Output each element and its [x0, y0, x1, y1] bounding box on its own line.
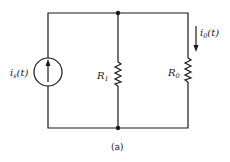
figure-caption: (a) [111, 142, 124, 152]
circuit-wires [48, 13, 188, 128]
source-label: is(t) [10, 67, 28, 80]
resistor-r0-icon [185, 58, 191, 82]
resistor-r1-label: R1 [96, 70, 109, 83]
resistor-r1-icon [115, 62, 121, 86]
bottom-junction-node [116, 126, 120, 130]
circuit-diagram: is(t) R1 R0 i0(t) (a) [0, 0, 230, 162]
top-junction-node [116, 11, 120, 15]
resistor-r0-label: R0 [167, 67, 180, 80]
output-current-arrow-icon [194, 26, 199, 52]
current-source-icon [34, 58, 62, 86]
output-current-label: i0(t) [200, 27, 219, 40]
